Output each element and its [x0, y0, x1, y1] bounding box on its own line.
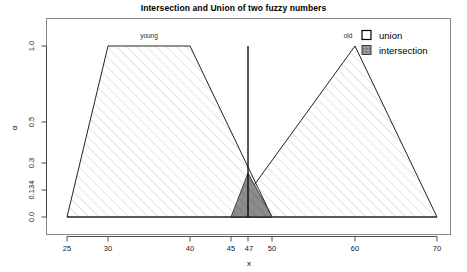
chart-legend: union intersection — [362, 30, 428, 56]
x-tick-label-40: 40 — [186, 244, 194, 253]
x-tick-label-60: 60 — [351, 244, 359, 253]
legend-label-intersection: intersection — [379, 45, 428, 56]
y-tick-label-0.5: 0.5 — [27, 117, 36, 127]
annotation-old: old — [344, 32, 353, 39]
legend-swatch-intersection — [362, 46, 371, 55]
x-tick-label-50: 50 — [268, 244, 276, 253]
x-tick-label-47: 47 — [245, 244, 253, 253]
x-tick-label-45: 45 — [227, 244, 235, 253]
legend-swatch-union — [362, 31, 371, 40]
chart-root: Intersection and Union of two fuzzy numb… — [0, 0, 467, 272]
y-tick-label-0.134: 0.134 — [27, 181, 36, 200]
legend-label-union: union — [379, 30, 402, 41]
y-axis-title: α — [10, 125, 19, 130]
series-area-old — [231, 46, 437, 217]
y-tick-label-1.0: 1.0 — [27, 41, 36, 51]
y-tick-label-0.3: 0.3 — [27, 158, 36, 168]
x-tick-label-25: 25 — [63, 244, 71, 253]
y-tick-label-0.0: 0.0 — [27, 212, 36, 222]
x-tick-label-30: 30 — [104, 244, 112, 253]
x-axis-title: x — [247, 259, 251, 268]
fuzzy-numbers-plot: 1.0 0.5 0.3 0.134 0.0 α 25 30 40 45 47 5… — [0, 0, 467, 272]
x-tick-label-70: 70 — [433, 244, 441, 253]
annotation-young: young — [140, 32, 158, 40]
